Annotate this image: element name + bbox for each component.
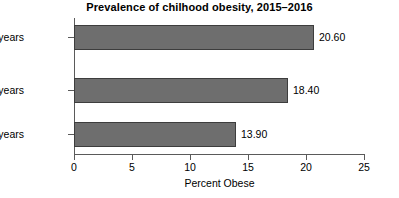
- y-axis-tick-label: 2–5 years: [0, 122, 24, 147]
- y-axis-tick-label: 6–11 years: [0, 78, 24, 103]
- plot-area: 12–19 years 20.60 6–11 years 18.40 2–5 y…: [74, 18, 365, 155]
- bar-value-label-6-11-years: 18.40: [293, 78, 319, 103]
- x-axis-line: [74, 154, 365, 155]
- bar-chart: Prevalence of chilhood obesity, 2015–201…: [0, 0, 399, 198]
- x-axis-tick: [190, 155, 191, 160]
- bar-value-label-2-5-years: 13.90: [241, 122, 267, 147]
- x-axis-tick: [306, 155, 307, 160]
- bar-value-label-12-19-years: 20.60: [319, 25, 345, 50]
- chart-title: Prevalence of chilhood obesity, 2015–201…: [0, 1, 399, 13]
- x-axis-tick-label: 5: [117, 161, 147, 173]
- x-axis-tick-label: 25: [349, 161, 379, 173]
- x-axis-tick: [132, 155, 133, 160]
- bar-2-5-years: [74, 122, 236, 147]
- bar-12-19-years: [74, 25, 314, 50]
- x-axis-tick: [248, 155, 249, 160]
- x-axis-title: Percent Obese: [74, 177, 365, 189]
- x-axis-tick-label: 15: [233, 161, 263, 173]
- bar-6-11-years: [74, 78, 288, 103]
- x-axis-tick: [74, 155, 75, 160]
- y-axis-tick-label: 12–19 years: [0, 25, 24, 50]
- x-axis-tick-label: 20: [291, 161, 321, 173]
- x-axis-tick-label: 0: [59, 161, 89, 173]
- x-axis-tick: [364, 155, 365, 160]
- x-axis-tick-label: 10: [175, 161, 205, 173]
